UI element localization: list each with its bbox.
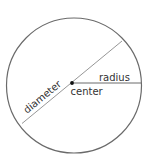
center-label: center [71, 86, 104, 97]
circle-diagram: radius center diameter [0, 0, 151, 164]
radius-label: radius [99, 72, 130, 83]
diameter-label: diameter [21, 78, 64, 116]
center-point [70, 81, 74, 85]
